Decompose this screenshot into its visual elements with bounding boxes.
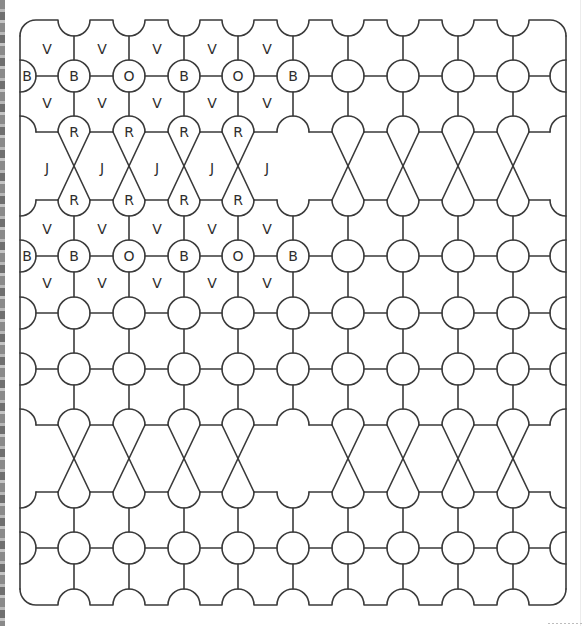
circle-label: O xyxy=(123,248,134,264)
pattern-circle xyxy=(168,353,200,385)
circle-label: B xyxy=(288,248,298,264)
teardrop-top xyxy=(113,409,145,425)
teardrop-top xyxy=(387,409,419,425)
cell-label: V xyxy=(207,41,217,57)
half-circle-dip xyxy=(277,492,309,508)
cell-label: V xyxy=(262,41,272,57)
pattern-circle xyxy=(332,240,364,272)
cell-label: V xyxy=(152,221,162,237)
teardrop-top xyxy=(58,409,90,425)
pattern-circle xyxy=(58,297,90,329)
cell-label: V xyxy=(152,95,162,111)
teardrop-label: R xyxy=(179,124,189,140)
cell-label: J xyxy=(99,160,104,176)
teardrop-top xyxy=(222,409,254,425)
cell-label: J xyxy=(154,160,159,176)
pattern-circle xyxy=(442,353,474,385)
pattern-circle xyxy=(168,297,200,329)
cell-label: J xyxy=(44,160,49,176)
edge-half-circle xyxy=(20,532,36,564)
teardrop-bottom xyxy=(497,492,529,508)
teardrop-top xyxy=(168,409,200,425)
pattern-circle xyxy=(277,353,309,385)
pattern-circle xyxy=(332,532,364,564)
pattern-circle xyxy=(497,240,529,272)
circle-label: B xyxy=(179,248,189,264)
cell-label: V xyxy=(262,95,272,111)
pattern-circle xyxy=(497,60,529,92)
pattern-circle xyxy=(442,532,474,564)
cell-label: J xyxy=(209,160,214,176)
cell-label: V xyxy=(207,95,217,111)
pattern-circle xyxy=(497,532,529,564)
edge-quarter-arc xyxy=(550,492,566,508)
pattern-circle xyxy=(222,297,254,329)
cell-label: V xyxy=(97,95,107,111)
teardrop-top xyxy=(332,409,364,425)
circle-label: B xyxy=(179,68,189,84)
circle-label: B xyxy=(69,68,79,84)
teardrop-bottom xyxy=(442,492,474,508)
edge-half-circle xyxy=(20,353,36,385)
half-circle-bump xyxy=(277,116,309,132)
teardrop-label: R xyxy=(179,192,189,208)
cell-label: V xyxy=(97,221,107,237)
half-circle-dip xyxy=(277,200,309,216)
teardrop-bottom xyxy=(168,492,200,508)
half-circle-bump xyxy=(277,409,309,425)
teardrop-label: R xyxy=(69,124,79,140)
edge-quarter-arc xyxy=(20,200,36,216)
pattern-circle xyxy=(113,297,145,329)
teardrop-top xyxy=(387,116,419,132)
edge-half-circle xyxy=(550,532,566,564)
cell-label: V xyxy=(152,41,162,57)
circle-label: O xyxy=(123,68,134,84)
edge-quarter-arc xyxy=(20,492,36,508)
pattern-circle xyxy=(168,532,200,564)
edge-half-circle xyxy=(550,297,566,329)
pattern-circle xyxy=(332,60,364,92)
cell-label: V xyxy=(152,275,162,291)
teardrop-top xyxy=(332,116,364,132)
teardrop-bottom xyxy=(58,492,90,508)
teardrop-label: R xyxy=(233,192,243,208)
cell-label: V xyxy=(97,41,107,57)
cell-label: V xyxy=(262,221,272,237)
edge-half-circle xyxy=(550,240,566,272)
teardrop-label: R xyxy=(124,192,134,208)
pattern-grid xyxy=(20,36,566,589)
cell-label: V xyxy=(207,275,217,291)
teardrop-bottom xyxy=(387,200,419,216)
cell-label: V xyxy=(42,275,52,291)
pattern-circle xyxy=(277,297,309,329)
teardrop-bottom xyxy=(113,492,145,508)
edge-half-circle xyxy=(20,297,36,329)
pattern-circle xyxy=(332,297,364,329)
circle-label: B xyxy=(22,248,32,264)
pattern-circle xyxy=(58,532,90,564)
cell-label: V xyxy=(262,275,272,291)
teardrop-bottom xyxy=(497,200,529,216)
pattern-circle xyxy=(442,240,474,272)
cell-label: V xyxy=(207,221,217,237)
edge-quarter-arc xyxy=(550,116,566,132)
teardrop-label: R xyxy=(233,124,243,140)
pattern-circle xyxy=(497,297,529,329)
edge-quarter-arc xyxy=(20,116,36,132)
lace-pattern-diagram: BBOBOBBBOBOBRRRRRRRRVVVVVVVVVVJJJJJVVVVV… xyxy=(0,0,586,626)
pattern-circle xyxy=(58,353,90,385)
cell-label: V xyxy=(97,275,107,291)
teardrop-bottom xyxy=(332,492,364,508)
pattern-circle xyxy=(277,532,309,564)
teardrop-bottom xyxy=(387,492,419,508)
teardrop-top xyxy=(442,116,474,132)
circle-label: O xyxy=(232,248,243,264)
teardrop-top xyxy=(497,409,529,425)
edge-half-circle xyxy=(550,60,566,92)
pattern-circle xyxy=(222,353,254,385)
pattern-circle xyxy=(387,240,419,272)
edge-quarter-arc xyxy=(550,409,566,425)
cell-label: V xyxy=(42,41,52,57)
pattern-circle xyxy=(113,532,145,564)
teardrop-bottom xyxy=(442,200,474,216)
